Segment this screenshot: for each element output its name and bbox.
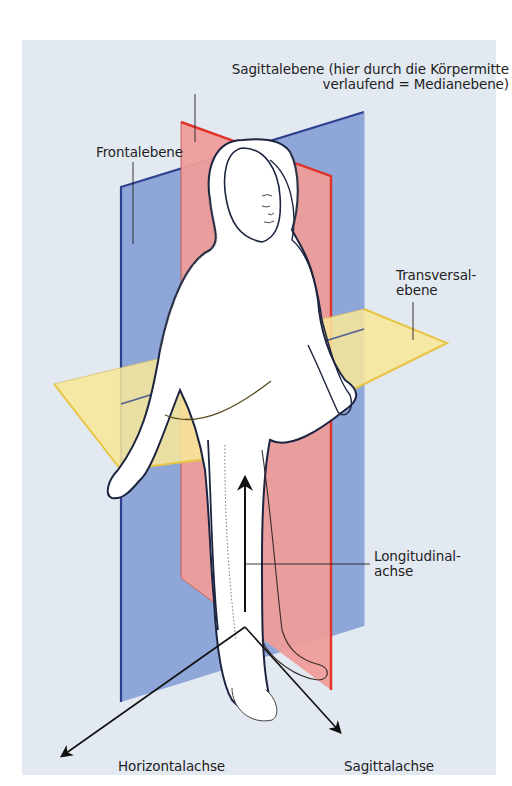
sagittal-axis-label: Sagittalachse	[344, 759, 434, 774]
transversal-plane-label-line2: ebene	[396, 283, 476, 298]
transversal-plane-label: Transversal- ebene	[396, 268, 476, 298]
transversal-plane-label-line1: Transversal-	[396, 268, 476, 283]
sagittal-plane-label-line1: Sagittalebene (hier durch die Körpermitt…	[204, 62, 509, 77]
body-planes-diagram	[0, 0, 512, 786]
longitudinal-axis-label-line2: achse	[374, 564, 461, 579]
longitudinal-axis-label: Longitudinal- achse	[374, 549, 461, 579]
sagittal-plane-label: Sagittalebene (hier durch die Körpermitt…	[204, 62, 509, 92]
sagittal-plane-label-line2: verlaufend = Medianebene)	[204, 77, 509, 92]
longitudinal-axis-label-line1: Longitudinal-	[374, 549, 461, 564]
frontal-plane-label: Frontalebene	[96, 145, 183, 160]
horizontal-axis-label: Horizontalachse	[118, 759, 225, 774]
